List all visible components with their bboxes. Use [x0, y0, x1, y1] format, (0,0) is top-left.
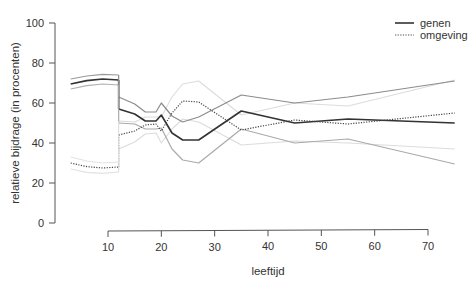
omgeving-upper-ci-line	[119, 80, 455, 122]
genen-line	[71, 79, 119, 84]
y-tick-label: 0	[38, 217, 44, 229]
line-chart: 020406080100 10203040506070 relatieve bi…	[0, 0, 474, 286]
x-axis-label: leeftijd	[251, 265, 284, 277]
omgeving-line	[71, 163, 119, 168]
x-tick-label: 40	[262, 240, 274, 252]
y-tick-label: 60	[32, 97, 44, 109]
y-tick-label: 100	[26, 17, 44, 29]
x-tick-label: 30	[209, 241, 221, 253]
genen-lower-ci-line	[71, 84, 119, 89]
plot-lines	[71, 74, 455, 173]
legend-omgeving-label: omgeving	[420, 29, 468, 41]
y-tick-label: 80	[32, 57, 44, 69]
x-tick-label: 10	[102, 241, 114, 253]
x-tick-label: 50	[315, 240, 327, 252]
y-axis: 020406080100	[26, 17, 55, 229]
genen-line	[119, 109, 455, 140]
legend-genen-label: genen	[420, 17, 451, 29]
y-tick-label: 40	[32, 137, 44, 149]
genen-upper-ci-line	[71, 74, 119, 79]
omgeving-lower-ci-line	[71, 169, 119, 173]
omgeving-line	[119, 101, 455, 135]
y-tick-label: 20	[32, 177, 44, 189]
x-tick-label: 70	[422, 240, 434, 252]
x-tick-label: 60	[369, 240, 381, 252]
x-tick-label: 20	[155, 241, 167, 253]
omgeving-upper-ci-line	[71, 157, 119, 163]
legend: genen omgeving	[395, 17, 468, 41]
y-axis-label: relatieve bijdrage (in procenten)	[9, 42, 21, 204]
x-axis: 10203040506070	[102, 230, 434, 254]
